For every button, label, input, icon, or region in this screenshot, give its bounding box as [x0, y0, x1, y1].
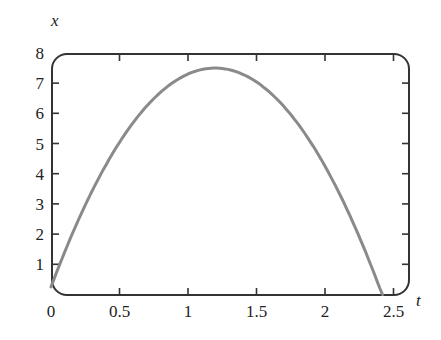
tick-label: 2 [321, 302, 330, 321]
x-axis-label: t [416, 291, 422, 310]
tick-labels: 00.511.522.512345678 [36, 44, 405, 321]
tick-label: 2 [36, 225, 45, 244]
tick-label: 8 [36, 44, 45, 63]
tick-label: 5 [36, 135, 45, 154]
y-axis-label: x [50, 11, 59, 30]
tick-label: 1 [36, 255, 45, 274]
tick-label: 6 [36, 104, 45, 123]
tick-label: 0 [47, 302, 56, 321]
chart: 00.511.522.512345678 x t [0, 0, 441, 340]
tick-label: 4 [36, 165, 45, 184]
tick-label: 1 [184, 302, 193, 321]
tick-label: 7 [36, 74, 45, 93]
tick-label: 0.5 [109, 302, 130, 321]
tick-label: 3 [36, 195, 45, 214]
tick-label: 1.5 [246, 302, 267, 321]
tick-label: 2.5 [383, 302, 404, 321]
data-curve [51, 68, 383, 294]
axis-ticks [52, 54, 409, 295]
plot-frame [52, 54, 409, 295]
